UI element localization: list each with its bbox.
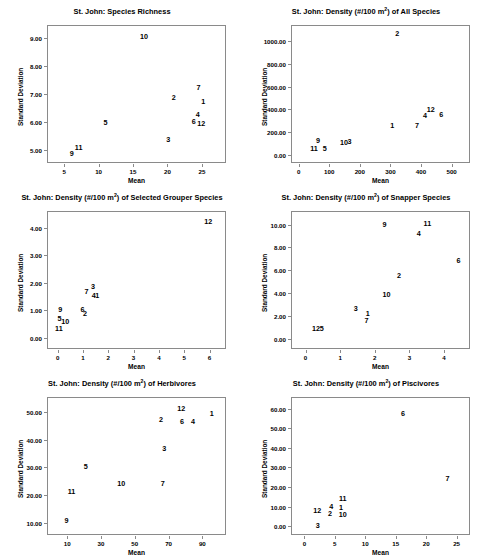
y-tick-label: 9.00 [30,34,42,41]
y-tick-mark [288,247,291,248]
data-point-label: 4 [423,113,427,120]
x-axis-label: Mean [47,549,226,556]
y-tick-label: 6.00 [274,267,286,274]
data-point-label: 6 [439,112,443,119]
x-axis-label: Mean [47,177,226,184]
y-tick-mark [44,122,47,123]
chart-title-species-richness: St. John: Species Richness [0,7,244,16]
x-tick-mark [159,350,160,353]
chart-panel-species-richness: St. John: Species Richness5.006.007.008.… [0,0,244,186]
title-prefix: St. John: Density (#/100 m [293,379,386,388]
y-tick-mark [288,41,291,42]
y-axis-label: Standard Deviation [261,68,268,126]
y-tick-mark [288,87,291,88]
x-tick-label: 5 [333,540,336,547]
plot-area-density-selected-grouper [47,211,226,349]
x-tick-label: 20 [164,168,171,175]
chart-title-density-snapper: St. John: Density (#/100 m2) of Snapper … [244,193,488,202]
x-tick-mark [340,350,341,353]
x-tick-label: 90 [199,540,206,547]
y-tick-mark [288,270,291,271]
x-tick-mark [67,536,68,539]
y-tick-mark [44,150,47,151]
x-tick-mark [169,536,170,539]
data-point-label: 1 [95,293,99,300]
y-tick-mark [44,283,47,284]
chart-panel-density-snapper: St. John: Density (#/100 m2) of Snapper … [244,186,488,372]
y-tick-label: 20.00 [27,491,42,498]
chart-panel-density-all-species: St. John: Density (#/100 m2) of All Spec… [244,0,488,186]
title-prefix: St. John: Density (#/100 m [292,7,385,16]
data-point-label: 2 [328,511,332,518]
chart-title-density-all-species: St. John: Density (#/100 m2) of All Spec… [244,7,488,16]
data-point-label: 10 [383,292,391,299]
data-point-label: 9 [316,137,320,144]
y-axis-label: Standard Deviation [17,440,24,498]
data-point-label: 10 [140,34,148,41]
x-tick-label: 10 [362,540,369,547]
data-point-label: 3 [166,137,170,144]
x-tick-mark [108,350,109,353]
x-tick-label: 0 [304,354,307,361]
data-point-label: 6 [401,410,405,417]
y-tick-mark [288,428,291,429]
data-point-label: 11 [310,146,318,153]
chart-panel-density-herbivores: St. John: Density (#/100 m2) of Herbivor… [0,372,244,558]
y-tick-label: 600.00 [267,83,286,90]
y-tick-mark [288,487,291,488]
y-tick-label: 40.00 [27,436,42,443]
x-axis-label: Mean [291,549,470,556]
y-tick-mark [44,412,47,413]
x-tick-label: 25 [198,168,205,175]
y-tick-mark [288,507,291,508]
x-tick-mark [184,350,185,353]
x-tick-mark [101,536,102,539]
data-point-label: 12 [204,218,212,225]
y-tick-label: 40.00 [271,444,286,451]
x-tick-label: 200 [355,168,365,175]
y-tick-mark [44,255,47,256]
x-tick-mark [83,350,84,353]
data-point-label: 9 [64,517,68,524]
y-tick-label: 0.00 [274,523,286,530]
x-axis-label: Mean [47,363,226,370]
x-tick-mark [306,350,307,353]
x-tick-mark [58,350,59,353]
x-tick-mark [444,350,445,353]
y-axis-label: Standard Deviation [17,254,24,312]
chart-panel-density-selected-grouper: St. John: Density (#/100 m2) of Selected… [0,186,244,372]
y-tick-mark [288,467,291,468]
y-tick-mark [288,409,291,410]
plot-area-density-herbivores [47,397,226,535]
scatterplot-matrix-figure: St. John: Species Richness5.006.007.008.… [0,0,488,558]
data-point-label: 10 [340,140,348,147]
y-tick-label: 5.00 [30,147,42,154]
x-tick-label: 4 [442,354,445,361]
data-point-label: 3 [316,522,320,529]
x-tick-label: 2 [373,354,376,361]
data-point-label: 2 [395,30,399,37]
x-tick-mark [99,164,100,167]
y-tick-mark [44,310,47,311]
y-tick-label: 60.00 [271,405,286,412]
y-tick-label: 20.00 [271,484,286,491]
x-tick-label: 20 [423,540,430,547]
x-tick-label: 15 [130,168,137,175]
x-tick-label: 30 [98,540,105,547]
x-tick-mark [304,536,305,539]
data-point-label: 2 [83,310,87,317]
data-point-label: 6 [180,419,184,426]
x-tick-label: 2 [107,354,110,361]
data-point-label: 4 [196,112,200,119]
y-tick-mark [288,155,291,156]
y-tick-mark [288,316,291,317]
title-prefix: St. John: Density (#/100 m [21,193,114,202]
data-point-label: 2 [172,94,176,101]
x-tick-label: 0 [56,354,59,361]
x-tick-mark [167,164,168,167]
x-axis-label: Mean [291,363,470,370]
title-prefix: St. John: Density (#/100 m [282,193,375,202]
x-tick-label: 70 [165,540,172,547]
y-tick-label: 10.00 [271,221,286,228]
y-tick-mark [288,64,291,65]
